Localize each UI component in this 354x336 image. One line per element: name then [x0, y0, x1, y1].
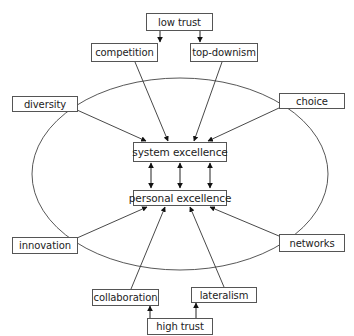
inputs-to-personal-excellence [77, 207, 279, 289]
node-personal-excellence: personal excellence [133, 190, 227, 206]
node-diversity: diversity [12, 96, 78, 112]
low-trust-arrows [160, 30, 200, 42]
node-low-trust: low trust [146, 13, 213, 31]
inputs-to-system-excellence [77, 62, 279, 141]
node-system-excellence: system excellence [133, 142, 227, 162]
diagram-canvas [0, 0, 354, 336]
system-personal-double-arrows [151, 163, 210, 188]
node-collaboration: collaboration [92, 289, 159, 306]
node-lateralism: lateralism [191, 287, 257, 303]
node-competition: competition [91, 43, 158, 62]
node-choice: choice [279, 93, 345, 109]
node-networks: networks [279, 234, 345, 252]
node-innovation: innovation [12, 237, 78, 254]
node-top-downism: top-downism [190, 43, 258, 62]
node-high-trust: high trust [147, 318, 213, 335]
